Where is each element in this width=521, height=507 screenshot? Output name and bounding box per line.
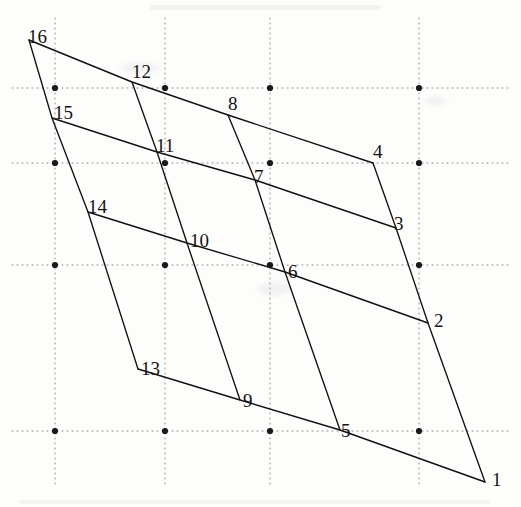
vertex-label-2: 2 [434,311,444,330]
vertex-label-16: 16 [28,27,47,46]
grid-intersection-dot [267,85,273,91]
edge-col-4-3-2-1 [373,163,485,482]
grid-intersection-dot [416,428,422,434]
grid-intersection-dot [267,160,273,166]
grid-intersection-dot [162,262,168,268]
vertex-label-8: 8 [228,94,238,113]
vertex-label-9: 9 [243,391,253,410]
edge-row-16-12-8-4 [29,40,373,163]
grid-intersection-dot [416,85,422,91]
edge-row-14-10-6-2 [88,212,428,323]
figure-canvas: 12345678910111213141516 [0,0,521,507]
vertex-label-11: 11 [156,136,174,155]
edge-col-12-11-10-9 [132,82,240,400]
vertex-label-7: 7 [254,167,264,186]
vertex-label-10: 10 [190,231,209,250]
line-diagram-svg [0,0,521,507]
vertex-label-12: 12 [132,62,151,81]
grid-intersection-dot [52,85,58,91]
edge-col-8-7-6-5 [228,115,340,430]
grid-intersection-dot [52,428,58,434]
vertex-label-13: 13 [141,359,160,378]
background-dotted-grid [12,18,509,487]
edge-col-16-15-14-13 [29,40,138,369]
grid-intersection-dot [267,262,273,268]
grid-intersection-dot [162,428,168,434]
vertex-label-1: 1 [492,470,502,489]
grid-intersection-dot [416,160,422,166]
edge-row-13-9-5-1 [138,369,485,482]
vertex-label-5: 5 [341,421,351,440]
grid-intersection-dot [52,160,58,166]
vertex-label-4: 4 [373,142,383,161]
grid-intersection-dot [162,85,168,91]
vertex-label-6: 6 [288,262,298,281]
grid-intersection-dot [52,262,58,268]
grid-intersection-dot [416,262,422,268]
polygon-edges-group [29,40,485,482]
vertex-label-14: 14 [88,197,107,216]
vertex-label-3: 3 [394,214,404,233]
grid-intersection-dot [162,160,168,166]
grid-intersection-dot [267,428,273,434]
vertex-label-15: 15 [54,103,73,122]
